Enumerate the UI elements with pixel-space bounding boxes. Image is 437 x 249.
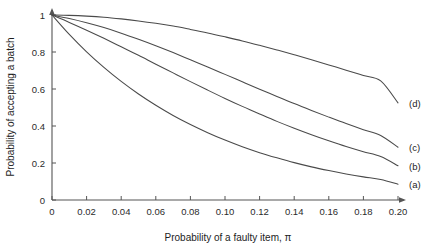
y-tick-label: 0.6 [32,84,45,95]
data-curve-d [52,15,398,103]
y-tick-label: 0.4 [32,121,45,132]
y-tick-label: 0.2 [32,158,45,169]
x-axis-title: Probability of a faulty item, π [165,232,292,243]
x-tick-label: 0.18 [354,206,373,217]
y-tick-label: 0.8 [32,47,45,58]
curve-label-c: (c) [409,142,420,153]
x-tick-label: 0.20 [389,206,408,217]
x-tick-label: 0.10 [216,206,235,217]
tick-marks-group [52,15,398,200]
curve-label-a: (a) [409,179,421,190]
chart-plot-area: 00.020.040.060.080.100.120.140.160.180.2… [0,0,437,249]
x-tick-label: 0.08 [181,206,200,217]
curves-group [52,15,398,184]
x-tick-label: 0.12 [250,206,269,217]
curve-label-d: (d) [409,98,421,109]
curve-labels-group: (d)(c)(b)(a) [409,98,421,190]
x-tick-label: 0 [49,206,54,217]
x-tick-label: 0.14 [285,206,304,217]
data-curve-a [52,15,398,184]
x-tick-label: 0.16 [320,206,339,217]
x-tick-label: 0.06 [147,206,166,217]
data-curve-c [52,15,398,147]
x-axis-arrow-icon [399,197,406,203]
x-tick-label: 0.04 [112,206,131,217]
data-curve-b [52,15,398,166]
x-tick-labels-group: 00.020.040.060.080.100.120.140.160.180.2… [49,206,407,217]
y-tick-labels-group: 00.20.40.60.81 [32,10,45,206]
x-tick-label: 0.02 [77,206,96,217]
chart-figure: 00.020.040.060.080.100.120.140.160.180.2… [0,0,437,249]
y-axis-arrow-icon [49,8,55,15]
y-tick-label: 1 [40,10,45,21]
curve-label-b: (b) [409,161,421,172]
y-tick-label: 0 [40,195,45,206]
y-axis-title: Probability of accepting a batch [5,38,16,177]
